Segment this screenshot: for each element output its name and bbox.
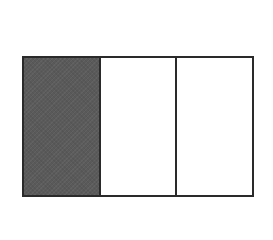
unshaded-part xyxy=(99,58,176,195)
shaded-part xyxy=(24,58,99,195)
unshaded-part xyxy=(175,58,252,195)
fraction-rectangle xyxy=(22,56,254,197)
